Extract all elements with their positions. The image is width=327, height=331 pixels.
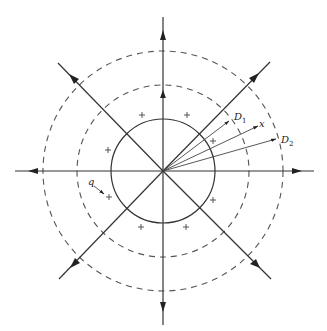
arrowhead-up-icon (160, 30, 166, 40)
plus-icon (184, 112, 190, 118)
label-d1: D1 (233, 111, 247, 125)
plus-icon (210, 138, 216, 144)
label-x: x (259, 118, 265, 129)
arrowhead-lower-right-icon (250, 259, 260, 268)
diagram-canvas: D1 x D2 q (0, 0, 327, 331)
plus-icon (210, 197, 216, 203)
q-arrow (94, 186, 104, 194)
label-q: q (88, 176, 94, 187)
plus-icon (183, 224, 189, 230)
plus-icon (138, 224, 144, 230)
arrowhead-left-icon (28, 168, 38, 174)
vector-d1 (163, 121, 229, 171)
plus-icon (106, 194, 112, 200)
plus-icon (139, 112, 145, 118)
plus-icon (105, 147, 111, 153)
label-d2: D2 (280, 134, 294, 148)
polar-diagram: D1 x D2 q (0, 0, 327, 331)
arrowhead-right-icon (292, 168, 302, 174)
arrowhead-down-icon (160, 302, 166, 312)
